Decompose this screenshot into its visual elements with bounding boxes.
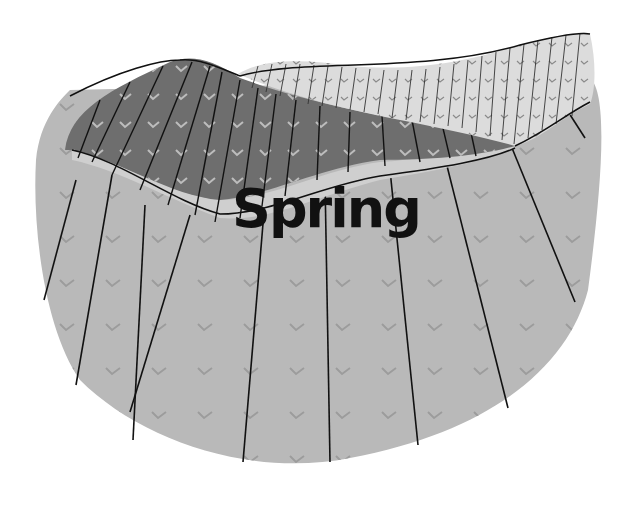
spring-diagram — [0, 0, 634, 518]
diagram-label: Spring — [232, 182, 420, 236]
